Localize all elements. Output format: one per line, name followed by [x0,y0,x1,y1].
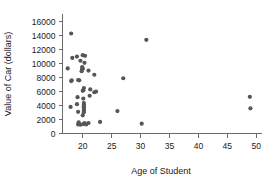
x-tick-label: 50 [251,141,261,151]
data-point [121,76,125,80]
y-tick-label: 4000 [37,101,56,111]
data-point [69,31,73,35]
data-points-layer [66,31,253,126]
x-tick-label: 25 [107,141,117,151]
x-tick-label: 20 [78,141,88,151]
data-point [92,90,96,94]
y-tick-label: 14000 [32,31,56,41]
data-point [81,89,85,93]
data-point [75,102,79,106]
data-point [144,38,148,42]
data-point [86,121,90,125]
x-axis: 20253035404550 [63,134,263,151]
data-point [69,79,73,83]
data-point [69,105,73,109]
data-point [66,66,70,70]
data-point [115,109,119,113]
data-point [81,66,85,70]
y-axis-title: Value of Car (dollars) [3,32,13,116]
data-point [75,54,79,58]
data-point [81,113,85,117]
chart-canvas: 0200040006000800010000120001400016000 20… [0,0,271,183]
data-point [78,59,82,63]
data-point [81,96,85,100]
data-point [75,95,79,99]
data-point [88,87,92,91]
scatter-plot-figure: 0200040006000800010000120001400016000 20… [0,0,271,183]
y-tick-label: 8000 [37,73,56,83]
data-point [82,61,86,65]
x-tick-label: 40 [194,141,204,151]
y-tick-label: 6000 [37,87,56,97]
data-point [76,110,80,114]
y-tick-label: 0 [51,129,56,139]
y-tick-label: 10000 [32,59,56,69]
data-point [248,95,252,99]
x-tick-label: 30 [136,141,146,151]
data-point [92,73,96,77]
y-tick-label: 16000 [32,17,56,27]
y-tick-label: 2000 [37,115,56,125]
data-point [83,54,87,58]
data-point [86,68,90,72]
x-axis-title: Age of Student [131,166,191,176]
y-tick-label: 12000 [32,45,56,55]
data-point [140,122,144,126]
x-tick-label: 35 [165,141,175,151]
data-point [248,106,252,110]
y-axis: 0200040006000800010000120001400016000 [32,14,63,139]
data-point [98,120,102,124]
data-point [88,94,92,98]
data-point [77,78,81,82]
data-point [70,56,74,60]
x-tick-label: 45 [223,141,233,151]
